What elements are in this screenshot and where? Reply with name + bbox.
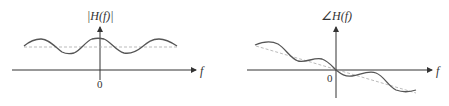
magnitude-x-label: f [200, 64, 205, 78]
magnitude-plot: |H(f)| f 0 [12, 9, 205, 90]
phase-title: ∠H(f) [321, 9, 352, 23]
magnitude-origin-label: 0 [97, 78, 103, 90]
phase-origin-label: 0 [327, 72, 333, 84]
magnitude-title: |H(f)| [87, 9, 114, 23]
phase-plot: ∠H(f) f 0 [247, 9, 441, 98]
phase-x-label: f [436, 64, 441, 78]
diagram-canvas: |H(f)| f 0 ∠H(f) f 0 [0, 0, 449, 106]
